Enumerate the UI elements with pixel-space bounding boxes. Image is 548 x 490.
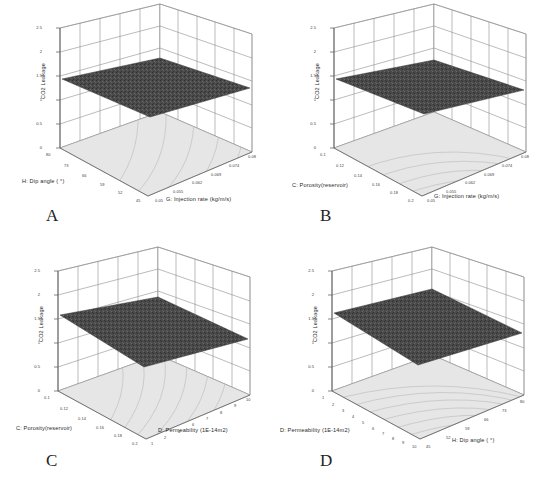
- z-axis-label-c: CO2 Leakage: [38, 293, 44, 355]
- y-tick-b-4: 0.074: [502, 163, 512, 168]
- z-tick-b-3: 1: [300, 97, 316, 102]
- y-tick-a-0: 0.05: [155, 198, 163, 203]
- x-tick-b-5: 0.2: [408, 198, 414, 203]
- z-tick-c-0: 2.5: [24, 268, 40, 273]
- x-axis-title-d: D: Permeability (1E-14m2): [280, 427, 350, 433]
- x-axis-title-a: H: Dip angle ( °): [22, 178, 64, 184]
- y-tick-a-4: 0.074: [229, 163, 239, 168]
- x-tick-a-2: 66: [82, 173, 87, 178]
- x-tick-c-5: 0.2: [132, 441, 138, 446]
- x-tick-d-4: 5: [362, 420, 364, 425]
- x-tick-d-1: 2: [332, 402, 334, 407]
- panel-b: CO2 Leakage 2.5 2 1.5 1 0.5 0 0.1 0.12 0…: [274, 0, 548, 245]
- y-axis-title-c: D: Permeability (1E-14m2): [158, 427, 228, 433]
- y-tick-a-5: 0.08: [248, 154, 256, 159]
- z-tick-a-0: 2.5: [26, 25, 42, 30]
- x-tick-d-7: 8: [392, 436, 394, 441]
- panel-letter-b: B: [320, 206, 332, 226]
- y-tick-c-4: 7: [206, 416, 208, 421]
- z-tick-c-4: 0.5: [24, 364, 40, 369]
- y-axis-title-a: G: Injection rate (kg/m/s): [166, 196, 231, 202]
- y-tick-c-7: 10: [246, 397, 251, 402]
- z-axis-d: [328, 271, 332, 391]
- figure-response-surface-grid: CO2 Leakage 2.5 2 1.5 1 0.5 0 80 73 66 5…: [0, 0, 548, 490]
- z-tick-a-1: 2: [26, 49, 42, 54]
- y-tick-b-3: 0.069: [484, 172, 494, 177]
- x-tick-d-3: 4: [352, 414, 354, 419]
- y-tick-b-5: 0.08: [521, 154, 529, 159]
- z-tick-c-1: 2: [24, 292, 40, 297]
- z-axis-label-b: CO2 Leakage: [314, 50, 320, 112]
- z-tick-b-4: 0.5: [300, 121, 316, 126]
- z-tick-d-4: 0.5: [298, 364, 314, 369]
- x-tick-a-3: 59: [100, 182, 105, 187]
- x-tick-c-2: 0.14: [78, 416, 86, 421]
- x-axis-title-b: C: Porosity(reservoir): [292, 182, 348, 188]
- panel-letter-a: A: [46, 206, 59, 226]
- z-tick-b-0: 2.5: [300, 25, 316, 30]
- panel-letter-d: D: [320, 451, 333, 471]
- z-tick-b-1: 2: [300, 49, 316, 54]
- x-tick-d-6: 7: [382, 431, 384, 436]
- z-axis-c: [54, 271, 58, 391]
- x-tick-d-5: 6: [372, 426, 374, 431]
- x-tick-c-1: 0.12: [60, 406, 68, 411]
- y-tick-d-0: 45: [426, 444, 431, 449]
- z-axis-a: [56, 28, 60, 148]
- plot-area-c: CO2 Leakage 2.5 2 1.5 1 0.5 0 0.1 0.12 0…: [0, 245, 274, 457]
- x-tick-a-4: 52: [118, 190, 123, 195]
- z-tick-a-3: 1: [26, 97, 42, 102]
- y-tick-a-1: 0.055: [173, 189, 183, 194]
- plot-area-a: CO2 Leakage 2.5 2 1.5 1 0.5 0 80 73 66 5…: [0, 0, 274, 212]
- x-tick-b-1: 0.12: [336, 163, 344, 168]
- y-tick-d-4: 73: [502, 408, 507, 413]
- z-tick-d-3: 1: [298, 340, 314, 345]
- z-tick-d-5: 0: [298, 388, 314, 393]
- y-tick-d-2: 59: [465, 426, 470, 431]
- x-tick-c-0: 0.1: [44, 395, 50, 400]
- x-tick-a-5: 45: [136, 198, 141, 203]
- panel-d: CO2 Leakage 2.5 2 1.5 1 0.5 0 1 2 3 4 5 …: [274, 245, 548, 490]
- panel-a: CO2 Leakage 2.5 2 1.5 1 0.5 0 80 73 66 5…: [0, 0, 274, 245]
- x-tick-d-2: 3: [342, 408, 344, 413]
- z-tick-c-2: 1.5: [24, 316, 40, 321]
- x-tick-d-9: 10: [412, 444, 417, 449]
- z-axis-label-a: CO2 Leakage: [40, 50, 46, 112]
- y-tick-c-6: 9: [234, 403, 236, 408]
- x-tick-b-2: 0.14: [354, 173, 362, 178]
- x-tick-a-0: 80: [46, 152, 51, 157]
- plot-area-b: CO2 Leakage 2.5 2 1.5 1 0.5 0 0.1 0.12 0…: [274, 0, 548, 212]
- x-tick-b-0: 0.1: [320, 152, 326, 157]
- x-tick-c-4: 0.18: [114, 433, 122, 438]
- x-tick-d-0: 1: [322, 395, 324, 400]
- z-tick-a-2: 1.5: [26, 73, 42, 78]
- x-axis-title-c: C: Porosity(reservoir): [16, 425, 72, 431]
- z-tick-c-5: 0: [24, 388, 40, 393]
- y-tick-a-2: 0.062: [192, 180, 202, 185]
- y-tick-d-5: 80: [520, 399, 525, 404]
- z-tick-b-5: 0: [300, 145, 316, 150]
- z-tick-b-2: 1.5: [300, 73, 316, 78]
- x-tick-c-3: 0.16: [96, 425, 104, 430]
- x-tick-b-4: 0.18: [390, 190, 398, 195]
- y-tick-c-0: 1: [151, 441, 153, 446]
- y-tick-b-2: 0.062: [465, 180, 475, 185]
- z-tick-a-5: 0: [26, 145, 42, 150]
- z-axis-b: [330, 28, 334, 148]
- y-tick-d-3: 66: [484, 417, 489, 422]
- x-tick-b-3: 0.16: [372, 182, 380, 187]
- z-tick-c-3: 1: [24, 340, 40, 345]
- z-tick-a-4: 0.5: [26, 121, 42, 126]
- z-axis-label-d: CO2 Leakage: [312, 293, 318, 355]
- plot-area-d: CO2 Leakage 2.5 2 1.5 1 0.5 0 1 2 3 4 5 …: [274, 245, 548, 457]
- y-axis-title-d: H: Dip angle ( °): [452, 437, 494, 443]
- panel-letter-c: C: [46, 451, 58, 471]
- z-tick-d-0: 2.5: [298, 268, 314, 273]
- y-tick-a-3: 0.069: [211, 172, 221, 177]
- y-tick-d-1: 52: [446, 435, 451, 440]
- y-axis-title-b: G: Injection rate (kg/m/s): [434, 193, 499, 199]
- z-tick-d-2: 1.5: [298, 316, 314, 321]
- y-tick-c-1: 2: [164, 435, 166, 440]
- x-tick-d-8: 9: [402, 440, 404, 445]
- x-tick-a-1: 73: [64, 163, 69, 168]
